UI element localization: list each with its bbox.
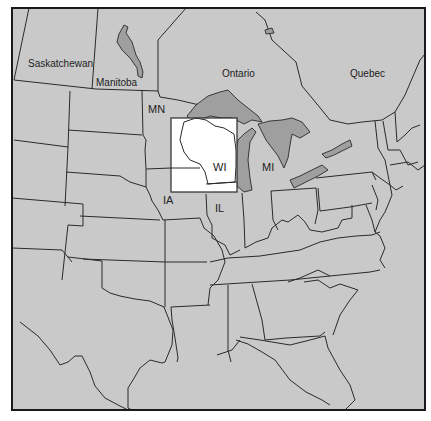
label-ia: IA — [163, 195, 173, 206]
label-wi: WI — [213, 162, 226, 173]
wisconsin-highlight-box — [171, 118, 237, 192]
label-saskatchewan: Saskatchewan — [28, 59, 93, 69]
label-mi: MI — [262, 162, 274, 173]
label-manitoba: Manitoba — [96, 78, 137, 88]
label-quebec: Quebec — [350, 69, 385, 79]
label-mn: MN — [148, 104, 165, 115]
label-il: IL — [215, 203, 224, 214]
label-ontario: Ontario — [222, 69, 255, 79]
